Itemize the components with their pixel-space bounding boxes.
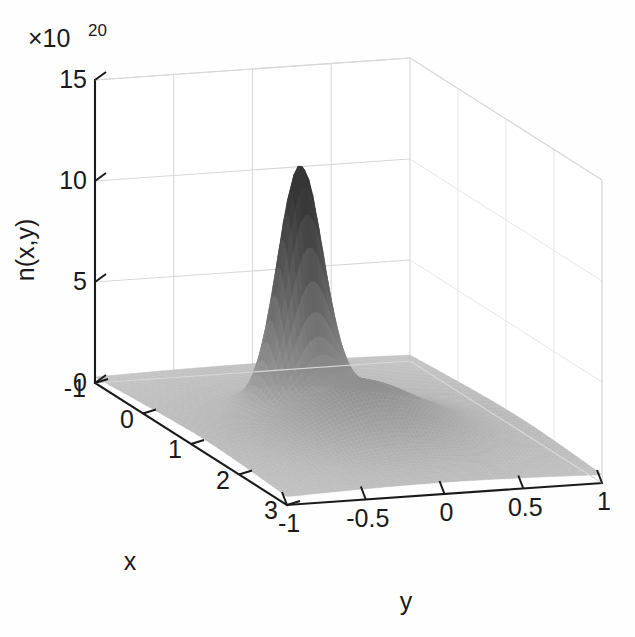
exponent-power: 20 [88,21,107,40]
y-tick-label: 1 [597,487,611,515]
x-tick-label: 2 [216,466,230,494]
x-tick-mark [143,410,156,414]
x-tick-label: 3 [264,496,278,524]
x-axis-title: x [124,547,137,575]
x-tick-label: 0 [120,405,134,433]
y-axis-title: y [400,587,413,615]
z-tick-label: 10 [59,166,87,194]
exponent-base: ×10 [28,24,70,52]
surface-plot-figure: 051015-10123-1-0.500.51 x y n(x,y) ×10 2… [0,0,635,637]
x-tick-label: 1 [168,435,182,463]
z-tick-label: 5 [73,267,87,295]
x-tick-label: -1 [64,374,86,402]
y-tick-label: 0.5 [508,493,543,521]
y-tick-mark [440,481,445,494]
plot-canvas: 051015-10123-1-0.500.51 x y n(x,y) ×10 2… [0,0,635,637]
exponent-multiplier: ×10 20 [28,21,107,52]
y-tick-label: -0.5 [346,504,389,532]
z-axis-title: n(x,y) [11,219,39,282]
y-tick-label: 0 [440,498,454,526]
x-tick-mark [239,471,252,475]
y-tick-label: -1 [278,509,300,537]
z-tick-label: 15 [59,65,87,93]
x-tick-mark [191,440,204,444]
